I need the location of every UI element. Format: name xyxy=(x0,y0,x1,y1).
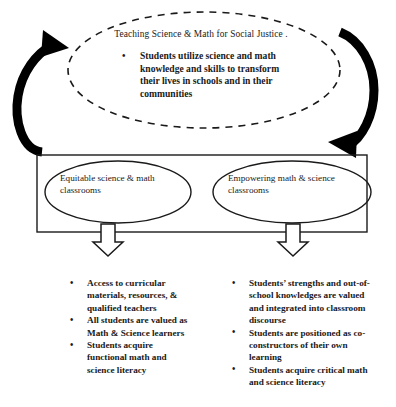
top-ellipse-heading: Teaching Science & Math for Social Justi… xyxy=(86,28,316,40)
top-ellipse-bullet-list: • Students utilize science and math know… xyxy=(120,50,296,100)
equitable-classrooms-label: Equitable science & math classrooms xyxy=(60,172,190,197)
list-item: • Access to curricular materials, resour… xyxy=(69,277,191,314)
list-item-label: Students’ strengths and out-of-school kn… xyxy=(249,278,370,325)
list-item: • All students are valued as Math & Scie… xyxy=(69,314,191,339)
empowering-classrooms-label: Empowering math & science classrooms xyxy=(228,172,368,197)
list-item-label: Students acquire functional math and sci… xyxy=(87,340,167,375)
list-item: • Students acquire functional math and s… xyxy=(69,339,191,376)
list-item: • Students acquire critical math and sci… xyxy=(231,364,371,389)
right-block-arrow xyxy=(278,224,308,256)
list-item: • Students’ strengths and out-of-school … xyxy=(231,277,371,327)
list-item: • Students utilize science and math know… xyxy=(120,50,296,100)
right-outcomes-list: • Students’ strengths and out-of-school … xyxy=(231,277,371,389)
bullet-icon: • xyxy=(70,339,73,351)
list-item-label: Students are positioned as co-constructo… xyxy=(249,328,365,363)
list-item-label: Students acquire critical math and scien… xyxy=(249,365,368,387)
list-item-label: Students utilize science and math knowle… xyxy=(140,50,279,99)
left-outcomes-list: • Access to curricular materials, resour… xyxy=(69,277,191,376)
bullet-icon: • xyxy=(232,277,235,289)
right-curved-arrow xyxy=(328,32,374,158)
bullet-icon: • xyxy=(232,363,235,375)
left-block-arrow xyxy=(93,224,123,256)
list-item: • Students are positioned as co-construc… xyxy=(231,327,371,364)
list-item-label: All students are valued as Math & Scienc… xyxy=(87,315,187,337)
list-item-label: Access to curricular materials, resource… xyxy=(87,278,178,313)
bullet-icon: • xyxy=(70,277,73,289)
bullet-icon: • xyxy=(70,314,73,326)
left-curved-arrow xyxy=(17,30,69,152)
diagram-canvas: Teaching Science & Math for Social Justi… xyxy=(0,0,396,407)
bullet-icon: • xyxy=(122,50,126,63)
bullet-icon: • xyxy=(232,326,235,338)
